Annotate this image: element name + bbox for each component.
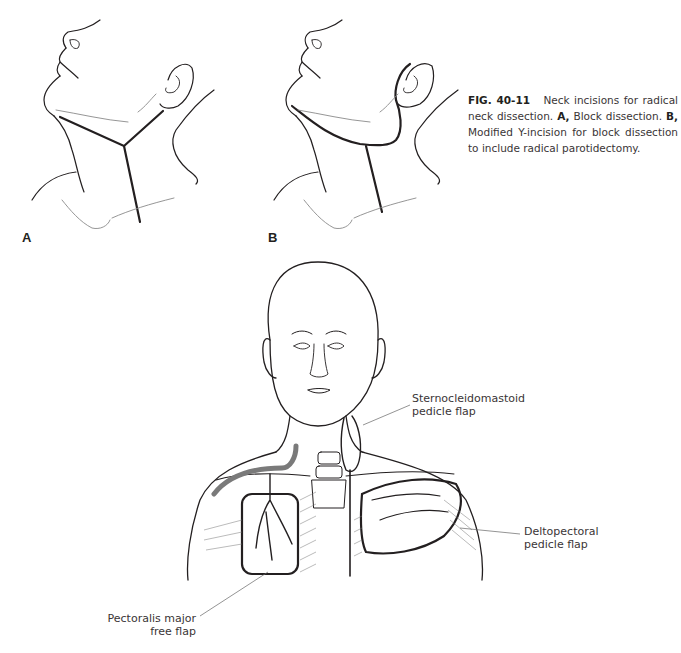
caption-text-b: Modified Y-incision for block dissection…	[468, 126, 678, 154]
annotation-scm-line1: Sternocleidomastoid	[412, 392, 525, 405]
annotation-pect-line1: Pectoralis major	[100, 612, 196, 625]
caption-text-a: Block dissection.	[573, 110, 662, 122]
annotation-delto-line2: pedicle flap	[524, 538, 599, 551]
figure-number: FIG. 40-11	[468, 94, 530, 106]
annotation-pect-line2: free flap	[100, 625, 196, 638]
annotation-delto-line1: Deltopectoral	[524, 525, 599, 538]
annotation-deltopectoral: Deltopectoral pedicle flap	[524, 525, 599, 551]
panel-label-a: A	[22, 230, 31, 245]
annotation-scm-line2: pedicle flap	[412, 405, 525, 418]
annotation-sternocleidomastoid: Sternocleidomastoid pedicle flap	[412, 392, 525, 418]
caption-label-a: A,	[557, 110, 569, 122]
panel-label-b: B	[268, 230, 277, 245]
annotation-pectoralis: Pectoralis major free flap	[100, 612, 196, 638]
caption-label-b: B,	[666, 110, 678, 122]
figure-caption: FIG. 40-11 Neck incisions for radical ne…	[468, 92, 678, 156]
